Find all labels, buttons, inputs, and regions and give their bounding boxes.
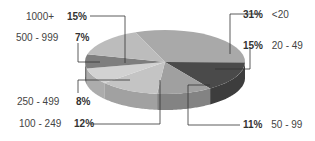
category-label: <20	[272, 9, 289, 20]
category-label: 250 - 499	[17, 96, 59, 107]
category-label: 1000+	[26, 11, 54, 22]
category-label: 20 - 49	[272, 40, 303, 51]
pie-slices	[85, 30, 245, 94]
percent-label: 12%	[74, 118, 94, 129]
category-label: 100 - 249	[19, 118, 61, 129]
percent-label: 15%	[67, 11, 87, 22]
percent-label: 8%	[76, 96, 90, 107]
label-20-49: 15% 20 - 49	[243, 40, 303, 52]
label-500-999: 500 - 999 7%	[16, 32, 90, 44]
label-1000-plus: 1000+ 15%	[26, 11, 87, 23]
category-label: 50 - 99	[271, 119, 302, 130]
category-label: 500 - 999	[16, 32, 58, 43]
percent-label: 15%	[243, 40, 263, 51]
percent-label: 31%	[243, 9, 263, 20]
percent-label: 7%	[75, 32, 89, 43]
percent-label: 11%	[243, 119, 262, 130]
label-100-249: 100 - 249 12%	[19, 118, 94, 130]
label-50-99: 11% 50 - 99	[243, 119, 302, 131]
label-lt20: 31% <20	[243, 9, 289, 21]
label-250-499: 250 - 499 8%	[17, 96, 91, 108]
